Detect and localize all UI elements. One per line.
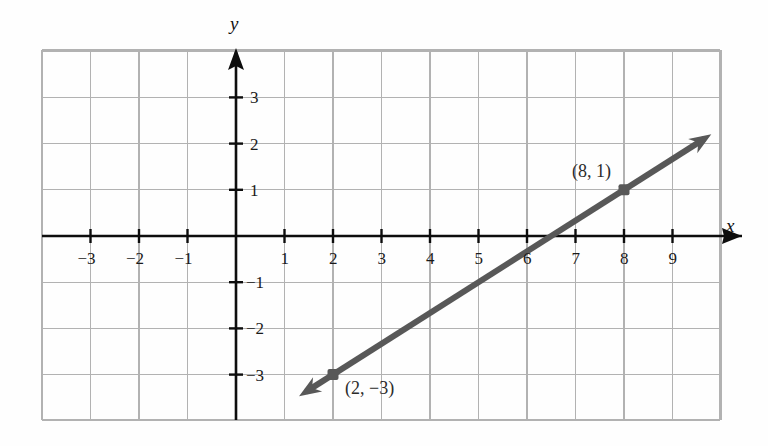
- x-axis-label: x: [726, 216, 734, 235]
- y-axis-label: y: [230, 14, 238, 33]
- y-tick-label-neg2: −2: [246, 320, 264, 337]
- x-tick-label-1: 1: [281, 250, 290, 267]
- x-tick-label-5: 5: [475, 250, 484, 267]
- x-tick-label-3: 3: [378, 250, 387, 267]
- x-tick-label-2: 2: [329, 250, 338, 267]
- point-label-0: (2, −3): [345, 379, 394, 397]
- data-point-marker: [619, 184, 630, 195]
- linear-function-line: [306, 139, 704, 392]
- axes-group: [42, 48, 742, 420]
- point-label-1: (8, 1): [572, 162, 611, 180]
- data-point-marker: [328, 369, 339, 380]
- y-tick-label-neg3: −3: [246, 367, 264, 384]
- y-tick-label-1: 1: [250, 182, 259, 199]
- y-tick-label-neg1: −1: [246, 274, 264, 291]
- y-tick-label-3: 3: [250, 89, 259, 106]
- x-tick-label-neg2: −2: [126, 250, 144, 267]
- x-tick-label-6: 6: [523, 250, 532, 267]
- x-tick-label-neg1: −1: [175, 250, 193, 267]
- x-tick-label-neg3: −3: [78, 250, 96, 267]
- x-tick-label-9: 9: [669, 250, 678, 267]
- x-tick-label-7: 7: [572, 250, 581, 267]
- graph-figure: y x −3−2−1123456789 321−1−2−3 (2, −3)(8,…: [0, 0, 768, 446]
- plotted-line-group: [299, 134, 711, 396]
- x-tick-label-8: 8: [620, 250, 629, 267]
- y-tick-label-2: 2: [250, 136, 259, 153]
- x-tick-label-4: 4: [426, 250, 435, 267]
